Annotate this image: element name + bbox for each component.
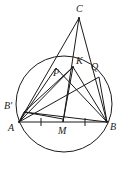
vertex-dot-C <box>78 17 80 19</box>
vertex-label-C: C <box>76 4 83 14</box>
geometry-canvas <box>0 0 125 173</box>
vertex-label-A: A <box>8 123 14 133</box>
vertex-label-M: M <box>58 126 66 136</box>
vertex-dot-A <box>18 121 20 123</box>
segment-A-Q <box>19 77 99 122</box>
vertex-label-B-prime: B' <box>4 101 12 111</box>
vertex-label-Q: Q <box>91 62 98 72</box>
vertex-dot-B <box>106 121 108 123</box>
vertex-dot-K <box>72 66 74 68</box>
vertex-label-K: K <box>76 56 83 66</box>
geometry-figure: C K Q P B' A M B <box>0 0 125 173</box>
vertex-label-P: P <box>53 68 59 78</box>
segment-Bprime-B <box>24 112 107 122</box>
vertex-label-B: B <box>110 122 116 132</box>
